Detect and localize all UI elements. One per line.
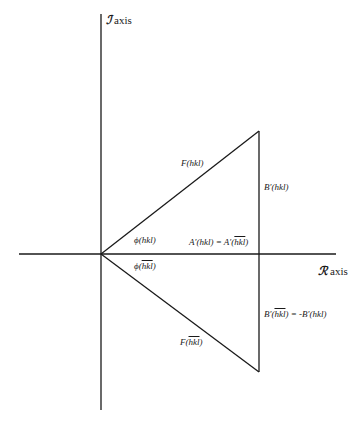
label-B-prime-hkl-bar-equality: B′(hkl) = -B′(hkl): [264, 310, 327, 319]
real-symbol: ℛ: [318, 264, 328, 278]
imaginary-axis-label: ℐaxis: [106, 14, 132, 26]
label-F-hkl: F(hkl): [181, 159, 204, 168]
label-phi-hkl-bar: ϕ(hkl): [134, 262, 156, 271]
label-B-prime-hkl: B′(hkl): [264, 183, 288, 192]
vector-F-hkl: [101, 131, 259, 254]
vector-F-hkl-bar: [101, 254, 259, 372]
argand-diagram: [0, 0, 364, 426]
imaginary-symbol: ℐ: [106, 13, 112, 27]
label-phi-hkl: ϕ(hkl): [134, 236, 156, 245]
label-A-prime-equality: A′(hkl) = A′(hkl): [189, 238, 248, 247]
real-axis-label: ℛaxis: [318, 265, 348, 277]
label-F-hkl-bar: F(hkl): [180, 338, 203, 347]
